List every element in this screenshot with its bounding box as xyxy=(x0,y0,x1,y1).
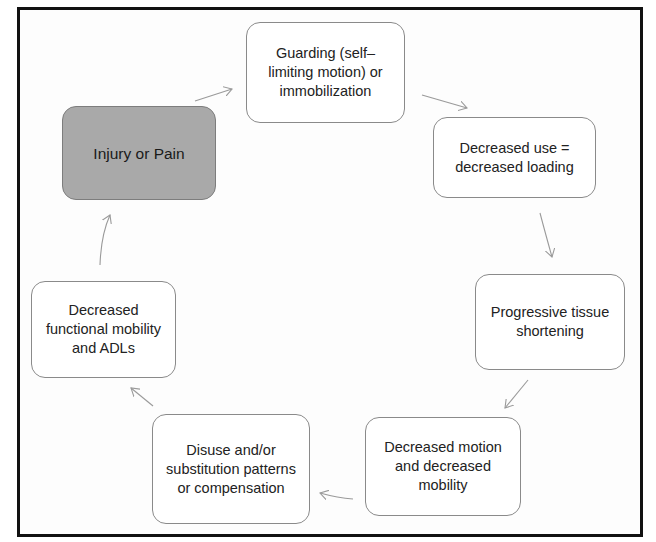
node-label: Decreased use = decreased loading xyxy=(448,139,581,177)
node-label: Injury or Pain xyxy=(93,144,184,163)
node-label: Progressive tissue shortening xyxy=(482,303,618,341)
node-disuse-substitution: Disuse and/or substitution patterns or c… xyxy=(152,414,310,524)
node-label: Disuse and/or substitution patterns or c… xyxy=(159,441,303,498)
node-decreased-use: Decreased use = decreased loading xyxy=(433,117,596,198)
node-label: Decreased motion and decreased mobility xyxy=(378,438,508,495)
node-guarding: Guarding (self–limiting motion) or immob… xyxy=(246,22,405,123)
node-label: Guarding (self–limiting motion) or immob… xyxy=(257,44,394,101)
node-decreased-functional-mobility: Decreased functional mobility and ADLs xyxy=(31,281,176,378)
node-injury-or-pain: Injury or Pain xyxy=(62,106,216,200)
node-progressive-tissue-shortening: Progressive tissue shortening xyxy=(475,274,625,370)
node-label: Decreased functional mobility and ADLs xyxy=(38,301,169,358)
node-decreased-motion: Decreased motion and decreased mobility xyxy=(365,417,521,516)
